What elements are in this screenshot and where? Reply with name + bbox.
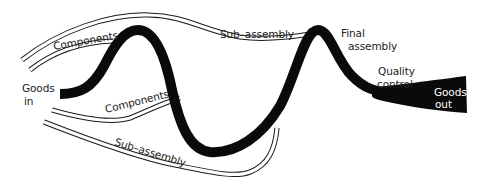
label-goods-in-2: in [24, 95, 33, 107]
label-subassembly-top: Sub–assembly [220, 28, 294, 40]
label-final-assembly-2: assembly [348, 40, 397, 52]
process-flow-diagram: Goods in Components Sub–assembly Compone… [0, 0, 484, 192]
label-components-bottom: Components [104, 87, 170, 114]
label-goods-in-1: Goods [22, 82, 55, 94]
label-final-assembly-1: Final [341, 27, 365, 39]
label-quality-control-2: control [377, 78, 413, 90]
label-goods-out-2: out [435, 98, 452, 110]
label-goods-out-1: Goods [434, 86, 467, 98]
label-quality-control-1: Quality [378, 65, 415, 77]
